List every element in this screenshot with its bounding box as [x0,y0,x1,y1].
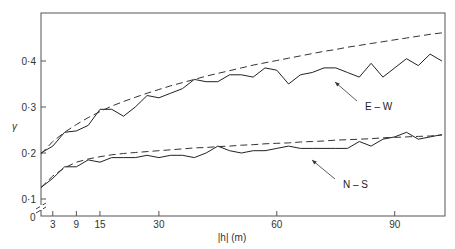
x-axis-label: |h| (m) [218,232,247,243]
x-tick-label: 30 [153,219,165,230]
y-axis-label: γ [12,121,18,132]
y-tick-label: 0·4 [22,56,37,67]
series-e-w-model [41,33,442,154]
y-tick-label: 0·1 [22,194,37,205]
variogram-chart: 39153060900·10·20·30·4E – WN – S 0 γ |h|… [0,0,455,249]
x-tick-label: 60 [271,219,283,230]
y-tick-label: 0·2 [22,148,37,159]
y-origin-label: 0 [30,212,36,223]
x-tick-label: 3 [50,219,56,230]
x-tick-label: 9 [74,219,80,230]
x-tick-label: 90 [389,219,401,230]
series-annotation-label: N – S [343,179,368,190]
plot-frame [41,13,445,216]
series-annotation-label: E – W [365,101,393,112]
axis-ticks [41,61,395,216]
series-n-s [41,132,442,187]
x-tick-label: 15 [94,219,106,230]
y-tick-label: 0·3 [22,102,37,113]
